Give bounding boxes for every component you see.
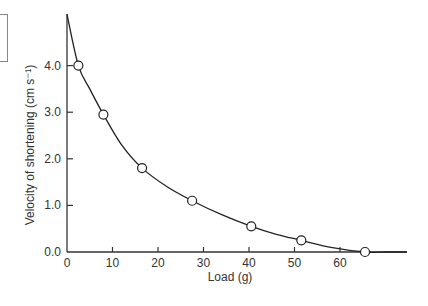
x-axis-label: Load (g) [208,270,253,284]
x-tick-label: 20 [151,256,165,270]
data-point-marker [74,61,83,70]
x-tick-label: 10 [106,256,120,270]
data-point-marker [297,236,306,245]
y-tick-label: 1.0 [44,198,61,212]
data-point-marker [361,248,370,257]
fitted-curve [67,14,407,252]
y-tick-label: 4.0 [44,59,61,73]
data-point-marker [188,196,197,205]
axes: 01020304050600.01.02.03.04.0 [44,14,407,270]
y-axis-label: Velocity of shortening (cm s⁻¹) [23,65,37,226]
data-points [74,61,370,256]
y-tick-label: 2.0 [44,152,61,166]
y-tick-label: 3.0 [44,105,61,119]
y-tick-label: 0.0 [44,245,61,259]
velocity-load-chart: 01020304050600.01.02.03.04.0 Load (g) Ve… [0,0,428,306]
x-tick-label: 0 [64,256,71,270]
x-tick-label: 60 [333,256,347,270]
data-point-marker [247,222,256,231]
data-point-marker [99,110,108,119]
curve-path [67,14,407,252]
x-tick-label: 30 [197,256,211,270]
x-tick-label: 50 [288,256,302,270]
x-tick-label: 40 [242,256,256,270]
data-point-marker [138,164,147,173]
